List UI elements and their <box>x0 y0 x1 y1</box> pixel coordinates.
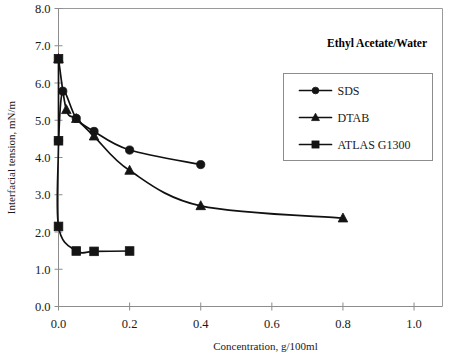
x-axis-title: Concentration, g/100ml <box>213 340 317 352</box>
legend-marker-square <box>312 141 319 148</box>
x-tick-label: 0.0 <box>51 317 67 331</box>
data-point-atlas-g1300 <box>54 222 63 231</box>
data-point-sds <box>197 160 205 168</box>
chart-canvas: 0.01.02.03.04.05.06.07.08.00.00.20.40.60… <box>0 0 449 357</box>
data-point-atlas-g1300 <box>72 247 81 256</box>
legend-marker-circle <box>312 87 319 94</box>
data-point-sds <box>59 87 67 95</box>
legend-label-dtab: DTAB <box>338 111 370 125</box>
data-point-sds <box>126 146 134 154</box>
y-tick-label: 2.0 <box>35 226 51 240</box>
x-tick-label: 0.2 <box>122 317 138 331</box>
data-point-atlas-g1300 <box>125 247 134 256</box>
x-tick-label: 0.4 <box>193 317 209 331</box>
chart-figure: 0.01.02.03.04.05.06.07.08.00.00.20.40.60… <box>0 0 449 357</box>
x-tick-label: 0.8 <box>335 317 351 331</box>
series-line-atlas-g1300 <box>57 59 129 253</box>
y-tick-label: 0.0 <box>35 300 51 314</box>
y-tick-label: 5.0 <box>35 114 51 128</box>
chart-title: Ethyl Acetate/Water <box>327 37 427 50</box>
y-tick-label: 3.0 <box>35 188 51 202</box>
data-point-atlas-g1300 <box>54 54 63 63</box>
y-axis-title: Interfacial tension, mN/m <box>5 100 17 214</box>
data-point-atlas-g1300 <box>54 136 63 145</box>
x-tick-label: 0.6 <box>264 317 280 331</box>
y-tick-label: 7.0 <box>35 39 51 53</box>
y-tick-label: 8.0 <box>35 2 51 16</box>
data-point-atlas-g1300 <box>90 247 99 256</box>
y-tick-label: 6.0 <box>35 77 51 91</box>
y-tick-label: 4.0 <box>35 151 51 165</box>
x-tick-label: 1.0 <box>406 317 422 331</box>
y-tick-label: 1.0 <box>35 263 51 277</box>
data-point-dtab <box>125 165 135 174</box>
legend-label-atlas-g1300: ATLAS G1300 <box>338 138 411 152</box>
legend-label-sds: SDS <box>338 84 360 98</box>
